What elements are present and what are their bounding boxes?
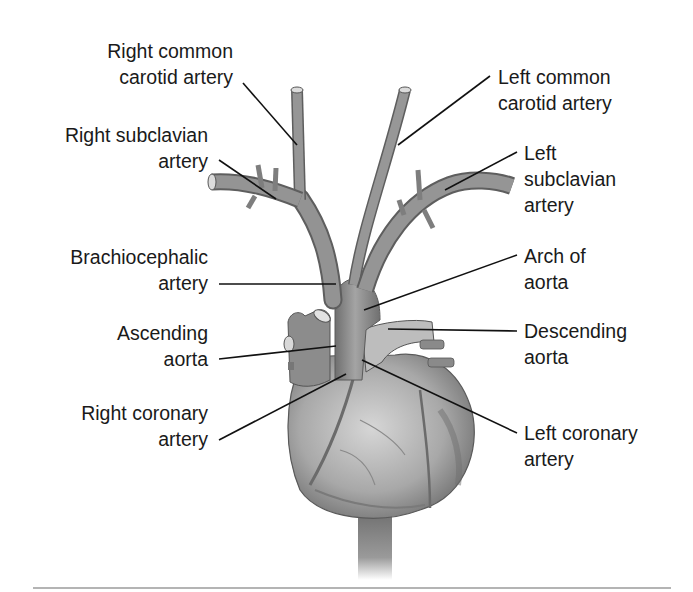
label-descending-aorta: Descending aorta	[524, 318, 627, 370]
right-common-carotid-artery	[291, 87, 303, 200]
label-right-subclavian-artery: Right subclavian artery	[65, 122, 208, 174]
label-line: Arch of	[524, 243, 586, 269]
label-ascending-aorta: Ascending aorta	[117, 320, 208, 372]
label-line: aorta	[117, 346, 208, 372]
label-line: Brachiocephalic	[70, 244, 208, 270]
label-line: Left coronary	[524, 420, 638, 446]
footer-divider	[33, 587, 671, 589]
label-brachiocephalic-artery: Brachiocephalic artery	[70, 244, 208, 296]
label-line: Left	[524, 140, 616, 166]
label-line: Left common	[498, 64, 612, 90]
label-left-coronary-artery: Left coronary artery	[524, 420, 638, 472]
label-line: Right coronary	[81, 400, 208, 426]
label-line: Ascending	[117, 320, 208, 346]
label-right-coronary-artery: Right coronary artery	[81, 400, 208, 452]
label-right-common-carotid-artery: Right common carotid artery	[107, 38, 233, 90]
label-arch-of-aorta: Arch of aorta	[524, 243, 586, 295]
leader-arch-of-aorta	[364, 255, 517, 310]
label-line: carotid artery	[107, 64, 233, 90]
leader-right-common-carotid	[243, 83, 297, 145]
label-line: Right subclavian	[65, 122, 208, 148]
label-line: artery	[70, 270, 208, 296]
label-line: artery	[524, 192, 616, 218]
label-line: aorta	[524, 344, 627, 370]
label-left-subclavian-artery: Left subclavian artery	[524, 140, 616, 218]
left-subclavian-artery	[365, 170, 512, 290]
label-line: aorta	[524, 269, 586, 295]
right-subclavian-artery	[208, 165, 300, 208]
label-line: subclavian	[524, 166, 616, 192]
label-left-common-carotid-artery: Left common carotid artery	[498, 64, 612, 116]
label-line: Descending	[524, 318, 627, 344]
label-line: artery	[65, 148, 208, 174]
label-line: Right common	[107, 38, 233, 64]
label-line: artery	[524, 446, 638, 472]
label-line: carotid artery	[498, 90, 612, 116]
label-line: artery	[81, 426, 208, 452]
leader-left-common-carotid	[398, 76, 490, 145]
